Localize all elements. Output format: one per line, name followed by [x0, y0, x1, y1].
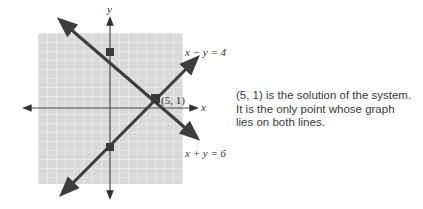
y-axis-label: y: [106, 3, 112, 15]
intersection-label: (5, 1): [161, 94, 185, 107]
point-y-intercept-lower: [106, 143, 114, 151]
caption-line: lies on both lines.: [236, 116, 423, 130]
caption-line: It is the only point whose graph: [236, 103, 423, 117]
x-axis-label: x: [200, 101, 206, 113]
line-label-x-plus-y: x + y = 6: [184, 147, 227, 159]
point-y-intercept-upper: [106, 48, 114, 56]
caption-line: (5, 1) is the solution of the system.: [236, 89, 423, 103]
line-label-x-minus-y: x − y = 4: [184, 46, 227, 58]
figure-caption: (5, 1) is the solution of the system. It…: [236, 89, 423, 130]
point-intersection: [151, 94, 160, 103]
